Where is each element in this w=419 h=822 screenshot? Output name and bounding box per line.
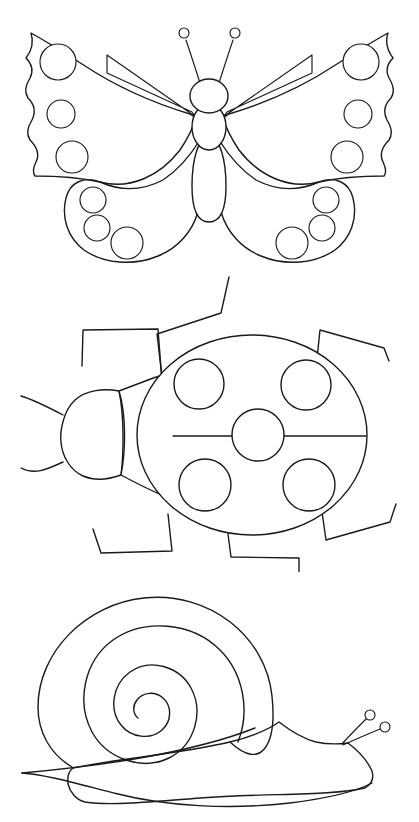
ladybug-head [61,390,123,479]
butterfly-figure [0,0,419,275]
ladybug-spot [283,459,335,511]
ladybug-left-antenna [21,396,63,415]
ladybug-spot [174,359,224,409]
ladybug-spot [281,360,331,410]
butterfly-spot [40,44,76,80]
snail-right-tentacle-tip-icon [380,722,390,732]
butterfly-spot [84,215,110,241]
snail-foot-sole [22,773,372,806]
butterfly-right-antenna-tip-icon [230,28,240,38]
snail-shell-spiral [84,626,244,763]
butterfly-spot [331,141,363,173]
butterfly-spot [344,100,372,128]
ladybug-leg [93,514,172,553]
ladybug-right-antenna [21,462,63,471]
snail-left-tentacle-tip-icon [365,710,375,720]
ladybug-spot [179,459,231,511]
snail-foot-top [22,728,255,773]
ladybug-leg [82,329,162,382]
butterfly-spot [80,187,106,213]
butterfly-spot [111,227,143,259]
butterfly-spot [56,141,88,173]
butterfly-spot [47,100,75,128]
butterfly-spot [276,227,308,259]
butterfly-spot [313,187,339,213]
ladybug-spot [232,409,284,461]
butterfly-head [190,79,228,113]
ladybug-leg [322,504,396,540]
butterfly-left-antenna-tip-icon [179,28,189,38]
butterfly-spot [343,44,379,80]
ladybug-figure [0,272,419,572]
snail-figure [0,562,419,822]
butterfly-spot [309,215,335,241]
coloring-page [0,0,419,822]
